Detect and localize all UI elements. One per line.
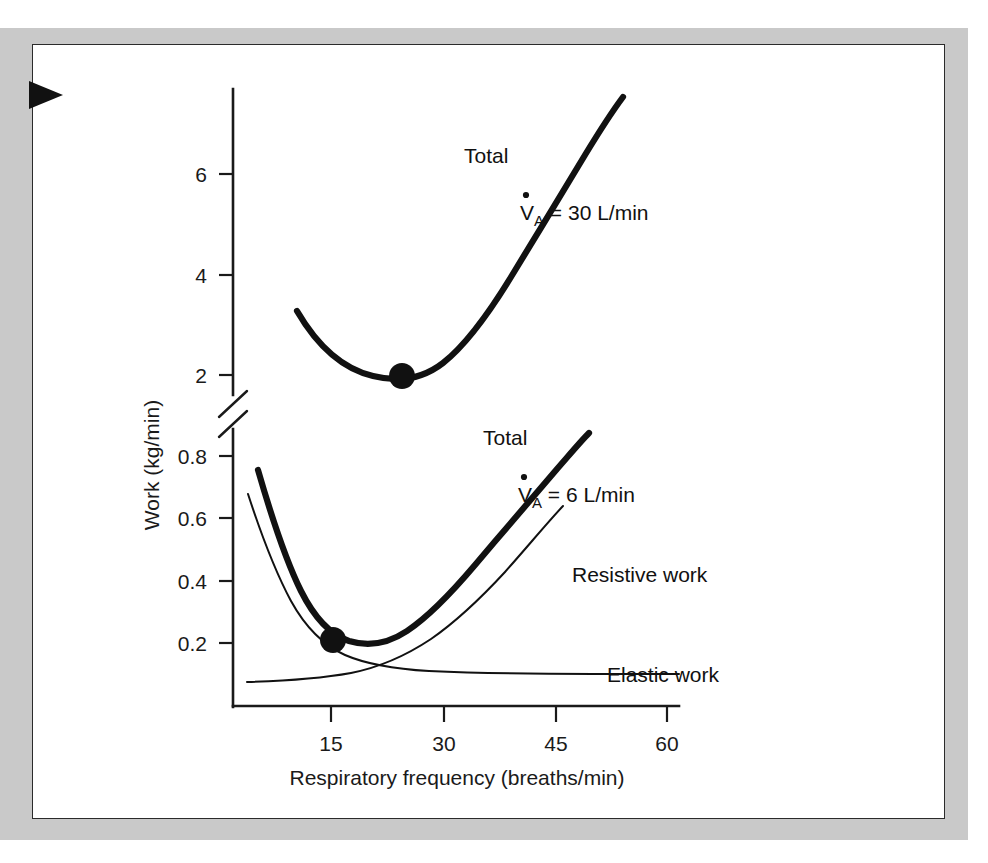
work-of-breathing-chart: 6 4 2 0.8 0.6 0.4 0.2 15 30 45 60 Respir… — [33, 45, 944, 817]
x-tick-label-30: 30 — [432, 732, 455, 755]
figure-panel: 6 4 2 0.8 0.6 0.4 0.2 15 30 45 60 Respir… — [32, 44, 945, 819]
x-axis-title: Respiratory frequency (breaths/min) — [290, 766, 625, 789]
label-total-lower: Total — [483, 426, 527, 449]
label-resistive-work: Resistive work — [572, 563, 708, 586]
curve-total-va6 — [258, 433, 589, 644]
curve-total-va30 — [297, 97, 623, 379]
label-va30-sub: A — [534, 212, 544, 229]
figure-root: 6 4 2 0.8 0.6 0.4 0.2 15 30 45 60 Respir… — [0, 0, 988, 863]
va6-overdot-icon — [521, 474, 527, 480]
label-va30-v: V — [520, 201, 534, 224]
svg-text:VA = 6 L/min: VA = 6 L/min — [518, 483, 635, 511]
x-tick-label-15: 15 — [319, 732, 342, 755]
label-va6-v: V — [518, 483, 532, 506]
optimum-marker-va30 — [389, 363, 415, 389]
label-total-upper: Total — [464, 144, 508, 167]
label-va30-rest: = 30 L/min — [544, 201, 648, 224]
x-tick-label-45: 45 — [544, 732, 567, 755]
y-tick-label-2: 2 — [195, 364, 207, 387]
y-tick-label-0.6: 0.6 — [178, 507, 207, 530]
y-tick-label-0.4: 0.4 — [178, 570, 208, 593]
svg-text:VA = 30 L/min: VA = 30 L/min — [520, 201, 649, 229]
x-tick-label-60: 60 — [655, 732, 678, 755]
va30-overdot-icon — [523, 192, 529, 198]
y-tick-label-0.2: 0.2 — [178, 632, 207, 655]
optimum-marker-va6 — [320, 627, 346, 653]
label-va6-rest: = 6 L/min — [542, 483, 635, 506]
y-tick-label-4: 4 — [195, 264, 207, 287]
y-tick-label-0.8: 0.8 — [178, 445, 207, 468]
label-elastic-work: Elastic work — [607, 663, 720, 686]
y-tick-label-6: 6 — [195, 163, 207, 186]
curve-resistive-work — [247, 506, 563, 682]
y-axis-title: Work (kg/min) — [140, 400, 163, 530]
label-va6-sub: A — [532, 494, 542, 511]
label-va30: VA = 30 L/min — [520, 192, 649, 229]
